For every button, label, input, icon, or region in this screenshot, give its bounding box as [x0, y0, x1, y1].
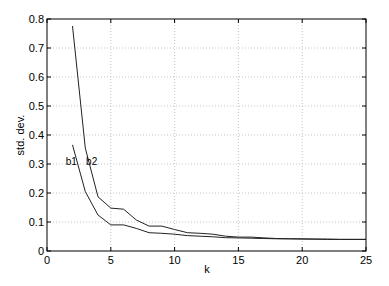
y-axis-label: std. dev. — [14, 115, 26, 156]
series-b1-line — [73, 145, 367, 240]
series-label-b1: b1 — [66, 156, 78, 167]
line-chart: 051015202500.10.20.30.40.50.60.70.8 b1b2… — [0, 0, 389, 286]
y-tick-label: 0 — [38, 245, 44, 257]
x-axis-label: k — [204, 263, 210, 275]
y-tick-label: 0.7 — [29, 42, 44, 54]
series-label-b2: b2 — [86, 156, 98, 167]
y-tick-label: 0.6 — [29, 71, 44, 83]
x-tick-label: 15 — [232, 254, 244, 266]
x-tick-label: 0 — [44, 254, 50, 266]
grid — [47, 19, 366, 251]
y-tick-label: 0.8 — [29, 13, 44, 25]
series-lines — [73, 26, 367, 239]
x-tick-label: 20 — [296, 254, 308, 266]
series-b2-line — [73, 26, 367, 239]
y-tick-label: 0.3 — [29, 158, 44, 170]
y-tick-label: 0.1 — [29, 216, 44, 228]
x-tick-label: 10 — [168, 254, 180, 266]
ticks: 051015202500.10.20.30.40.50.60.70.8 — [29, 13, 372, 266]
series-labels: b1b2 — [66, 156, 98, 167]
y-tick-label: 0.5 — [29, 100, 44, 112]
x-tick-label: 25 — [360, 254, 372, 266]
y-tick-label: 0.2 — [29, 187, 44, 199]
y-tick-label: 0.4 — [29, 129, 44, 141]
x-tick-label: 5 — [108, 254, 114, 266]
